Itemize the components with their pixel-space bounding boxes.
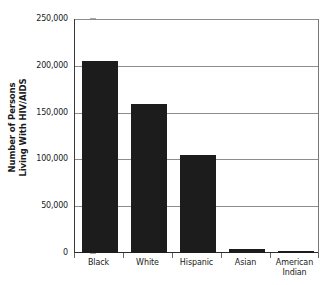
x-label-white-line-1: White <box>136 258 159 268</box>
x-label-hispanic: Hispanic <box>180 258 213 268</box>
bar-hispanic[interactable] <box>180 155 216 253</box>
x-label-american-indian: American Indian <box>276 258 313 278</box>
x-label-black: Black <box>88 258 109 268</box>
bar-chart: Number of Persons Living With HIV/AIDS 2… <box>0 0 329 285</box>
y-axis-tick-labels: 250,000 200,000 150,000 100,000 50,000 0 <box>22 0 74 255</box>
y-tick-label-250000: 250,000 <box>36 15 68 23</box>
bar-slot-american-indian <box>271 19 320 253</box>
x-axis-labels: Black White Hispanic Asian American Indi… <box>74 258 319 285</box>
y-tick-label-200000: 200,000 <box>36 62 68 70</box>
bar-slot-asian <box>222 19 271 253</box>
x-label-white: White <box>136 258 159 268</box>
x-label-black-line-1: Black <box>88 258 109 268</box>
bars-layer <box>75 19 318 253</box>
bar-slot-white <box>124 19 173 253</box>
y-tick-label-0: 0 <box>63 249 68 257</box>
y-axis-title-line-1: Number of Persons <box>7 78 18 176</box>
x-label-asian: Asian <box>235 258 256 268</box>
y-tick-label-50000: 50,000 <box>41 202 68 210</box>
y-tick-label-150000: 150,000 <box>36 109 68 117</box>
bar-slot-hispanic <box>173 19 222 253</box>
bar-white[interactable] <box>131 104 167 253</box>
x-label-hispanic-line-1: Hispanic <box>180 258 213 268</box>
plot-area <box>74 19 319 253</box>
bar-slot-black <box>75 19 124 253</box>
y-tick-label-100000: 100,000 <box>36 155 68 163</box>
x-label-american-indian-line-1: American <box>276 258 313 268</box>
x-label-asian-line-1: Asian <box>235 258 256 268</box>
bar-black[interactable] <box>82 61 118 253</box>
x-label-american-indian-line-2: Indian <box>276 268 313 278</box>
